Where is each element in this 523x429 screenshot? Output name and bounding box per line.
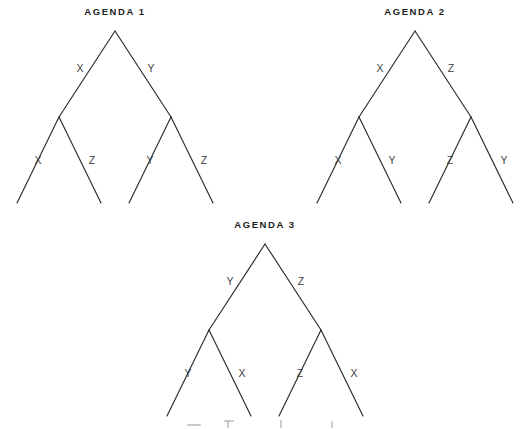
branch-label-left-child-left: X	[34, 154, 41, 166]
branch-label-left-child-right: Y	[388, 154, 395, 166]
tree-diagram: X Z X Y Z Y	[315, 27, 515, 209]
tree-diagram: X Y X Z Y Z	[15, 27, 215, 209]
tree-agenda-2: AGENDA 2 X Z X Y Z Y	[315, 5, 515, 209]
clipped-caption-fragment	[187, 424, 201, 426]
clipped-caption-fragment	[331, 421, 333, 428]
branch-label-right-child-left: Z	[447, 154, 454, 166]
branch-label-right-child-right: Z	[201, 154, 208, 166]
clipped-caption-fragment	[224, 420, 234, 422]
tree-title: AGENDA 2	[315, 5, 515, 18]
branch-label-root-left: Y	[226, 275, 233, 287]
tree-title: AGENDA 3	[165, 218, 365, 231]
branch-root-left-line	[209, 244, 265, 330]
branch-lines	[167, 244, 363, 416]
branch-root-right-line	[115, 31, 171, 117]
branch-root-right-line	[415, 31, 471, 117]
clipped-caption-fragment	[280, 420, 282, 428]
branch-label-right-child-left: Y	[146, 154, 153, 166]
branch-root-right-line	[265, 244, 321, 330]
branch-label-root-right: Y	[147, 62, 154, 74]
branch-label-root-right: Z	[298, 275, 305, 287]
branch-label-root-left: X	[76, 62, 83, 74]
branch-label-left-child-right: Z	[89, 154, 96, 166]
branch-label-left-child-right: X	[238, 367, 245, 379]
branch-root-left-line	[59, 31, 115, 117]
branch-label-root-left: X	[376, 62, 383, 74]
branch-lines	[17, 31, 213, 203]
clipped-caption-fragment	[227, 421, 229, 428]
branch-label-left-child-left: Y	[184, 367, 191, 379]
branch-root-left-line	[359, 31, 415, 117]
branch-label-left-child-left: X	[334, 154, 341, 166]
branch-lines	[317, 31, 513, 203]
tree-agenda-1: AGENDA 1 X Y X Z Y Z	[15, 5, 215, 209]
branch-label-right-child-right: Y	[500, 154, 507, 166]
diagram-canvas: AGENDA 1 X Y X Z Y Z AGENDA 2	[0, 0, 523, 429]
branch-label-root-right: Z	[448, 62, 455, 74]
tree-diagram: Y Z Y X Z X	[165, 240, 365, 422]
branch-label-right-child-left: Z	[297, 367, 304, 379]
branch-label-right-child-right: X	[350, 367, 357, 379]
tree-agenda-3: AGENDA 3 Y Z Y X Z X	[165, 218, 365, 422]
tree-title: AGENDA 1	[15, 5, 215, 18]
